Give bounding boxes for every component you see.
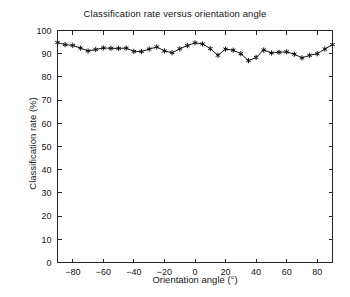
plot-area: 0102030405060708090100 −80−60−40−2002040… bbox=[0, 0, 350, 297]
data-series bbox=[55, 40, 335, 63]
y-tick-label: 100 bbox=[36, 26, 51, 36]
x-axis-label: Orientation angle (°) bbox=[57, 274, 333, 285]
y-tick-label: 30 bbox=[41, 188, 51, 198]
y-tick-label: 60 bbox=[41, 119, 51, 129]
y-tick-label: 50 bbox=[41, 142, 51, 152]
data-point-marker bbox=[78, 46, 83, 51]
data-point-marker bbox=[323, 46, 328, 51]
chart-figure: Classification rate versus orientation a… bbox=[0, 0, 350, 297]
data-point-marker bbox=[185, 43, 190, 48]
data-point-marker bbox=[177, 46, 182, 51]
y-tick-label: 20 bbox=[41, 211, 51, 221]
y-axis-label: Classification rate (%) bbox=[27, 54, 38, 234]
data-point-marker bbox=[330, 42, 335, 47]
plot-box bbox=[58, 31, 333, 263]
plot-frame bbox=[58, 31, 333, 263]
y-tick-label: 0 bbox=[46, 258, 51, 268]
data-point-marker bbox=[300, 55, 305, 60]
x-axis-ticks: −80−60−40−20020406080 bbox=[65, 31, 322, 277]
y-tick-label: 80 bbox=[41, 72, 51, 82]
y-axis-ticks: 0102030405060708090100 bbox=[36, 26, 332, 268]
y-tick-label: 10 bbox=[41, 235, 51, 245]
y-tick-label: 40 bbox=[41, 165, 51, 175]
y-tick-label: 70 bbox=[41, 95, 51, 105]
y-tick-label: 90 bbox=[41, 49, 51, 59]
